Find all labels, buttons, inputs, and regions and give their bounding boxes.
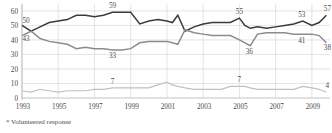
point-label: 4 [326, 82, 330, 90]
svg-text:40: 40 [11, 37, 19, 45]
svg-text:2001: 2001 [161, 103, 176, 111]
point-label: 7 [238, 76, 242, 84]
point-label: 41 [298, 37, 306, 45]
svg-text:2009: 2009 [306, 103, 321, 111]
svg-text:1999: 1999 [125, 103, 140, 111]
chart-plot-area: 0102030405060 19931995199719992001200320… [0, 0, 332, 133]
line-chart: 0102030405060 19931995199719992001200320… [0, 0, 332, 133]
svg-text:30: 30 [11, 51, 19, 59]
svg-text:1997: 1997 [88, 103, 103, 111]
svg-text:50: 50 [11, 22, 19, 30]
svg-text:20: 20 [11, 66, 19, 74]
svg-text:0: 0 [14, 95, 18, 103]
point-label: 38 [324, 44, 332, 52]
point-label: 57 [324, 5, 332, 13]
svg-text:2003: 2003 [197, 103, 212, 111]
grid-horizontal [22, 11, 330, 98]
svg-text:60: 60 [11, 8, 19, 16]
point-label: 36 [246, 48, 254, 56]
svg-text:10: 10 [11, 80, 19, 88]
grid-vertical [22, 4, 312, 100]
point-label: 59 [109, 2, 117, 10]
point-label: 7 [111, 78, 115, 86]
point-label: 50 [22, 17, 30, 25]
axis-y-tick-labels: 0102030405060 [11, 8, 19, 103]
point-label: 53 [298, 11, 306, 19]
axis-x-tick-labels: 199319951997199920012003200520072009 [16, 103, 321, 111]
series-lines [22, 12, 326, 92]
footnote-volunteered-response: * Volunteered response [6, 118, 71, 126]
point-label: 43 [22, 35, 30, 43]
svg-text:2007: 2007 [269, 103, 284, 111]
point-label: 33 [109, 52, 117, 60]
svg-text:1995: 1995 [52, 103, 67, 111]
series-dark-series [22, 12, 326, 31]
svg-text:1993: 1993 [16, 103, 31, 111]
point-label: 55 [236, 8, 244, 16]
svg-text:2005: 2005 [233, 103, 248, 111]
